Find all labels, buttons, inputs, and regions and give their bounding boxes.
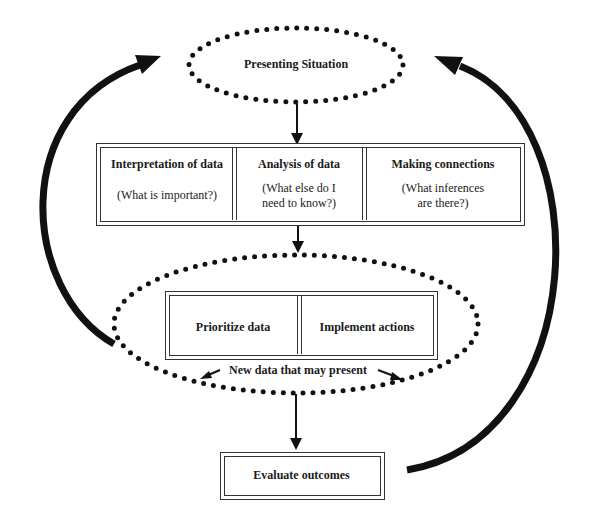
right-feedback-arrow [407,56,556,470]
prioritize-data-label: Prioritize data [171,320,295,334]
new-data-right-arrow [378,370,403,380]
assessment-divider-2 [362,147,367,220]
diagram-canvas [0,0,611,525]
connections-subtitle-line2: are there?) [368,196,518,210]
arrow-down-1 [291,104,303,145]
assessment-divider-1 [232,147,237,220]
evaluate-outcomes-label: Evaluate outcomes [224,468,379,482]
connections-subtitle-line1: (What inferences [368,181,518,195]
action-divider [297,295,302,354]
interpretation-title: Interpretation of data [102,157,232,171]
analysis-subtitle-line2: need to know?) [238,196,360,210]
interpretation-subtitle: (What is important?) [102,188,232,202]
connections-title: Making connections [368,157,518,171]
arrow-down-3 [290,394,302,450]
presenting-situation-label: Presenting Situation [216,57,376,71]
analysis-title: Analysis of data [238,157,360,171]
arrow-down-2 [292,225,304,253]
analysis-subtitle-line1: (What else do I [238,181,360,195]
implement-actions-label: Implement actions [303,320,431,334]
new-data-note: New data that may present [216,363,380,377]
